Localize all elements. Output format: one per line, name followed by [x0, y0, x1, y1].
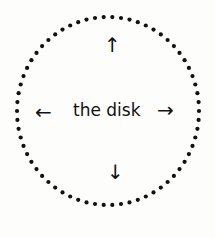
arrow-down-icon: ↓: [107, 160, 124, 184]
arrow-right-icon: →: [157, 98, 174, 122]
arrow-up-icon: ↑: [104, 33, 121, 57]
disk-label: the disk: [73, 100, 141, 120]
arrow-left-icon: ←: [35, 100, 52, 124]
